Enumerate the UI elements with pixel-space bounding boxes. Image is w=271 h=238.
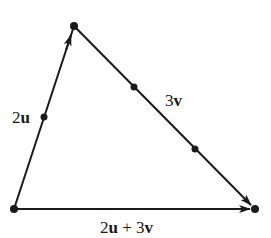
vertex-origin-dot — [10, 205, 18, 213]
right-third-dot-1 — [131, 84, 138, 91]
left-midpoint-dot — [41, 114, 48, 121]
label-3v: 3v — [165, 91, 183, 110]
vector-3v-line — [74, 26, 251, 205]
label-2u: 2u — [12, 108, 30, 127]
vector-2u-arrow — [66, 35, 71, 50]
vertex-apex-dot — [70, 22, 78, 30]
right-third-dot-2 — [192, 146, 199, 153]
vector-triangle-diagram: 2u 3v 2u + 3v — [0, 0, 271, 238]
vertex-end-dot — [251, 205, 259, 213]
label-2u-plus-3v: 2u + 3v — [100, 218, 154, 237]
